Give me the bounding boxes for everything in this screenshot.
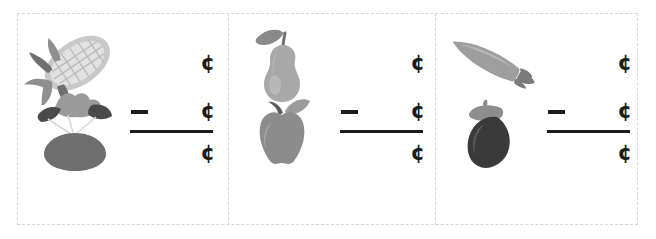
answer-cent-2[interactable]: ¢ xyxy=(410,143,425,164)
minuend-cent-3[interactable]: ¢ xyxy=(617,53,632,74)
apple-icon xyxy=(228,91,348,173)
minus-sign-3 xyxy=(548,110,565,114)
worksheet-canvas: ¢ ¢ ¢ ¢ xyxy=(0,0,656,239)
minus-sign-2 xyxy=(341,110,358,114)
problem-panel-2: ¢ ¢ ¢ xyxy=(228,13,435,225)
subtraction-problem-1: ¢ ¢ ¢ xyxy=(125,53,217,173)
subtrahend-cent-3[interactable]: ¢ xyxy=(617,101,632,122)
subtrahend-cent-2[interactable]: ¢ xyxy=(410,101,425,122)
answer-rule-2 xyxy=(340,130,423,133)
beet-icon xyxy=(18,91,138,173)
answer-cent-3[interactable]: ¢ xyxy=(617,143,632,164)
eggplant-icon xyxy=(435,91,555,173)
problem-panel-3: ¢ ¢ ¢ xyxy=(435,13,642,225)
answer-rule-1 xyxy=(130,130,213,133)
subtraction-problem-2: ¢ ¢ ¢ xyxy=(335,53,427,173)
subtrahend-cent-1[interactable]: ¢ xyxy=(200,101,215,122)
problem-panel-1: ¢ ¢ ¢ xyxy=(18,13,225,225)
minus-sign-1 xyxy=(131,110,148,114)
minuend-cent-2[interactable]: ¢ xyxy=(410,53,425,74)
subtraction-problem-3: ¢ ¢ ¢ xyxy=(542,53,634,173)
minuend-cent-1[interactable]: ¢ xyxy=(200,53,215,74)
answer-cent-1[interactable]: ¢ xyxy=(200,143,215,164)
answer-rule-3 xyxy=(547,130,630,133)
